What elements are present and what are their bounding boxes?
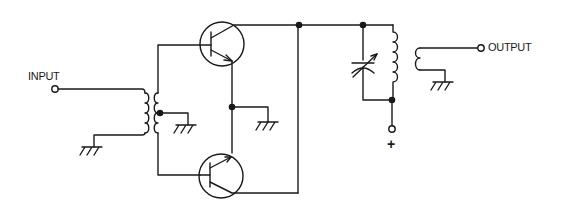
output-label: OUTPUT [488,41,531,53]
transistor-q2-icon [199,107,298,198]
secondary-top-wire [158,45,200,93]
ground-icon [256,122,278,130]
output-ground-wire [420,70,445,82]
primary-ground-wire [94,133,145,147]
ground-icon [431,82,453,90]
tank-inductor-coil [393,25,398,100]
input-label: INPUT [28,70,60,82]
emitter-ground-wire [232,107,268,122]
input-terminal[interactable] [52,86,58,92]
secondary-bottom-wire [158,133,200,175]
variable-capacitor-icon [352,54,377,77]
ground-icon [174,125,196,133]
supply-terminal[interactable] [389,126,395,132]
center-tap-wire [160,113,188,125]
transistor-q1-icon [200,22,298,106]
ground-icon [80,147,102,155]
transformer-primary-coil [145,93,149,133]
input-wire [58,89,145,93]
output-terminal[interactable] [478,45,484,51]
circuit-schematic [0,0,566,202]
output-coupling-coil [416,48,421,70]
supply-label: + [387,136,395,152]
